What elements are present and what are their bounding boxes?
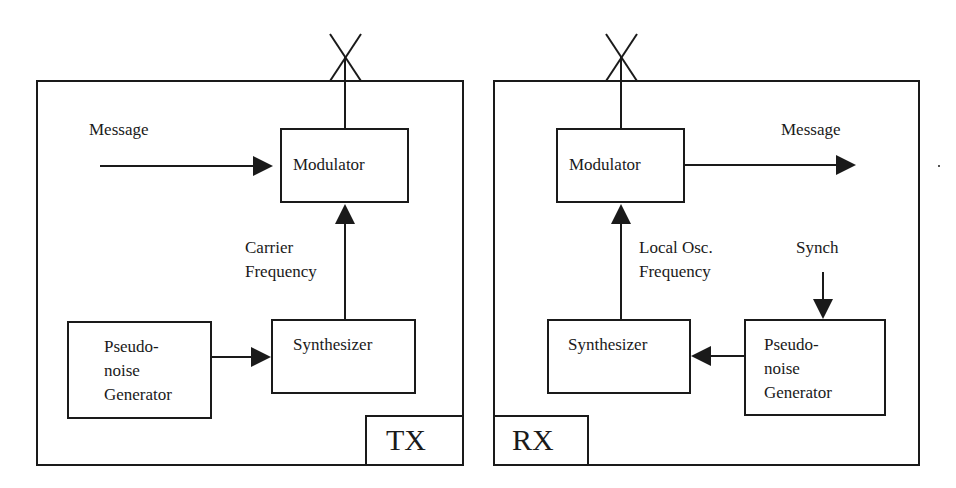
- rx-modulator-label: Modulator: [569, 154, 641, 175]
- tx-synthesizer-block: [272, 320, 415, 393]
- rx-lo-label-2: Frequency: [639, 261, 711, 282]
- arrowhead-icon: [335, 204, 355, 224]
- tx-carrier-label-2: Frequency: [245, 261, 317, 282]
- tx-pn-label-3: Generator: [104, 384, 172, 405]
- tx-pn-label-1: Pseudo-: [104, 336, 159, 357]
- rx-pn-label-1: Pseudo-: [764, 334, 819, 355]
- rx-synthesizer-block: [548, 320, 690, 393]
- speck: [938, 165, 940, 167]
- rx-pn-label-2: noise: [764, 358, 800, 379]
- tx-carrier-label-1: Carrier: [245, 237, 293, 258]
- arrowhead-icon: [813, 299, 833, 319]
- tx-synthesizer-label: Synthesizer: [293, 334, 372, 355]
- tx-pn-label-2: noise: [104, 360, 140, 381]
- arrowhead-icon: [253, 156, 273, 176]
- tx-message-label: Message: [89, 119, 148, 140]
- rx-label: RX: [512, 423, 554, 457]
- rx-synthesizer-label: Synthesizer: [568, 334, 647, 355]
- rx-pn-label-3: Generator: [764, 382, 832, 403]
- tx-label: TX: [386, 423, 426, 457]
- arrowhead-icon: [836, 155, 856, 175]
- rx-message-label: Message: [781, 119, 840, 140]
- arrowhead-icon: [691, 346, 711, 366]
- arrowhead-icon: [251, 347, 271, 367]
- rx-synch-label: Synch: [796, 237, 839, 258]
- rx-lo-label-1: Local Osc.: [639, 237, 713, 258]
- arrowhead-icon: [611, 204, 631, 224]
- tx-modulator-label: Modulator: [293, 154, 365, 175]
